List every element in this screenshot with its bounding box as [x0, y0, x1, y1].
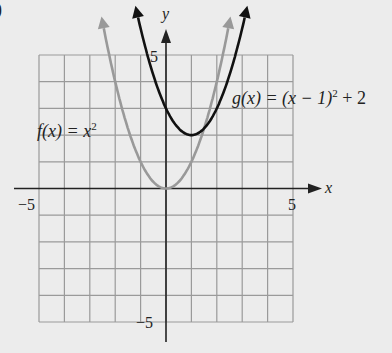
- g-curve-arrow-icon: [132, 6, 144, 19]
- g-function-label: g(x) = (x − 1)2 + 2: [232, 88, 366, 107]
- f-exponent: 2: [91, 120, 97, 132]
- y-axis-label: y: [162, 6, 169, 22]
- y-axis-arrow-icon: [161, 29, 171, 43]
- g-curve-arrow-icon: [239, 6, 251, 19]
- f-curve-arrow-icon: [222, 16, 234, 29]
- f-curve-arrow-icon: [98, 16, 110, 29]
- y-max-tick-label: 5: [150, 49, 158, 65]
- graph: [0, 0, 392, 353]
- x-axis-label: x: [325, 180, 332, 196]
- x-axis-arrow-icon: [308, 184, 322, 194]
- x-max-tick-label: 5: [288, 197, 296, 213]
- x-min-tick-label: −5: [18, 197, 35, 213]
- f-function-name: f(x) = x: [37, 121, 91, 141]
- g-function-name: g(x) = (x − 1): [232, 88, 332, 108]
- y-min-tick-label: −5: [136, 315, 153, 331]
- f-function-label: f(x) = x2: [37, 121, 97, 140]
- g-function-tail: + 2: [338, 88, 366, 108]
